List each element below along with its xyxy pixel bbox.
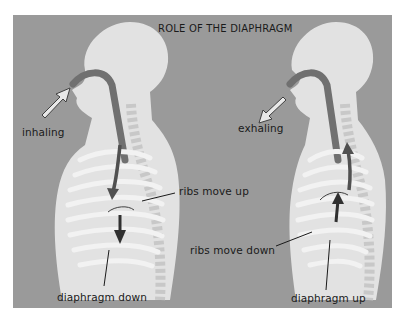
label-diaphragm-up: diaphragm up: [291, 292, 366, 304]
left-figure: [42, 22, 180, 300]
inhale-arrow-icon: [42, 88, 70, 118]
right-figure: [259, 22, 386, 300]
label-diaphragm-down: diaphragm down: [57, 291, 147, 303]
right-air-flow-arrow-icon: [348, 150, 350, 190]
diagram-artwork: [0, 0, 408, 321]
label-inhaling: inhaling: [22, 126, 65, 138]
label-ribs-move-up: ribs move up: [179, 185, 249, 197]
exhale-arrow-icon: [259, 97, 286, 123]
label-exhaling: exhaling: [238, 122, 284, 134]
label-ribs-move-down: ribs move down: [190, 244, 275, 256]
diagram-title: ROLE OF THE DIAPHRAGM: [158, 23, 293, 34]
